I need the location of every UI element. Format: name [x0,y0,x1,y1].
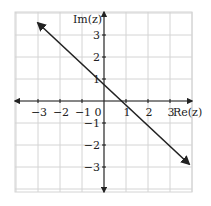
y-tick-label: 3 [93,29,100,42]
x-tick-label: 2 [146,106,153,119]
y-tick-label: 2 [93,51,100,64]
complex-plane-chart: −3−2−10123−3−2−1123 Re(z) Im(z) [0,0,211,206]
x-axis-label: Re(z) [173,106,202,119]
axes [15,12,192,192]
y-tick-label: −3 [84,161,100,174]
y-tick-label: −2 [84,139,100,152]
x-tick-label: −3 [31,106,47,119]
x-tick-label: −2 [53,106,69,119]
y-tick-label: −1 [84,117,100,130]
y-axis-label: Im(z) [73,13,102,26]
data-line [38,23,189,164]
